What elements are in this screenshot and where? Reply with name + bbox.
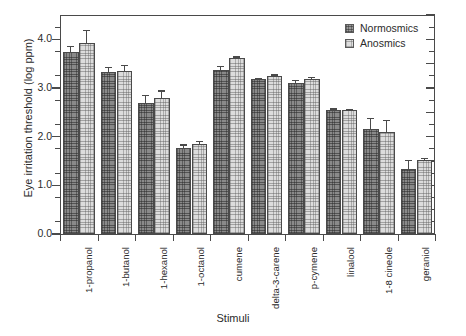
y-tick-minor [55, 124, 61, 125]
bar-normosmics [251, 79, 267, 234]
x-tick [398, 234, 399, 241]
y-tick-major [52, 39, 61, 40]
y-tick-minor [55, 173, 61, 174]
right-tick-minor [429, 124, 435, 125]
error-bar-cap [255, 78, 262, 79]
y-axis-line [60, 15, 61, 235]
bar-anosmics [192, 144, 208, 234]
y-tick-major [52, 185, 61, 186]
legend-label-anosmics: Anosmics [360, 37, 406, 49]
right-tick-minor [429, 75, 435, 76]
legend: Normosmics Anosmics [345, 22, 418, 52]
legend-swatch-normosmics-icon [345, 24, 354, 33]
bar-chart-figure: 0.01.02.03.04.0 Eye irritation threshold… [0, 0, 466, 336]
error-bar-cap [271, 74, 278, 75]
x-tick-label: 1-8 cineole [383, 247, 394, 294]
x-axis-title: Stimuli [0, 312, 466, 324]
right-tick-major [426, 112, 435, 113]
error-bar-cap [367, 118, 374, 119]
bar-anosmics [154, 98, 170, 234]
bar-normosmics [401, 169, 417, 234]
bar-normosmics [63, 52, 79, 234]
error-bar-cap [421, 158, 428, 159]
error-bar-cap [292, 80, 299, 81]
x-tick-label: 1-hexanol [158, 247, 169, 289]
y-tick-minor [55, 100, 61, 101]
error-bar [408, 160, 409, 169]
y-tick-minor [55, 148, 61, 149]
bar-anosmics [117, 71, 133, 234]
right-tick-minor [429, 27, 435, 28]
error-bar-cap [405, 160, 412, 161]
bar-normosmics [101, 72, 117, 234]
error-bar-cap [158, 90, 165, 91]
x-tick-label: delta-3-carene [270, 247, 281, 309]
right-tick-major [426, 39, 435, 40]
bar-normosmics [138, 103, 154, 234]
error-bar-cap [330, 108, 337, 109]
x-tick [323, 234, 324, 241]
x-tick [210, 234, 211, 241]
bar-anosmics [342, 110, 358, 234]
y-tick-label: 0.0 [6, 227, 52, 239]
legend-label-normosmics: Normosmics [360, 22, 418, 34]
error-bar-cap [67, 46, 74, 47]
error-bar-cap [217, 66, 224, 67]
bar-normosmics [176, 148, 192, 234]
right-tick-major [426, 14, 435, 15]
y-tick-minor [55, 75, 61, 76]
right-tick-major [426, 63, 435, 64]
error-bar [370, 118, 371, 129]
bar-normosmics [288, 83, 304, 234]
error-bar-cap [196, 141, 203, 142]
error-bar-cap [180, 144, 187, 145]
error-bar-cap [308, 77, 315, 78]
bar-normosmics [363, 129, 379, 234]
bar-anosmics [79, 43, 95, 234]
error-bar [386, 120, 387, 132]
x-tick [435, 234, 436, 241]
x-tick [285, 234, 286, 241]
bar-normosmics [326, 110, 342, 234]
error-bar-cap [346, 109, 353, 110]
error-bar-cap [105, 67, 112, 68]
legend-entry-anosmics: Anosmics [345, 37, 418, 49]
right-tick-minor [429, 51, 435, 52]
x-tick-label: cumene [233, 247, 244, 281]
error-bar-cap [121, 65, 128, 66]
x-tick [360, 234, 361, 241]
error-bar [86, 30, 87, 43]
x-tick-label: p-cymene [308, 247, 319, 289]
x-tick-label: 1-octanol [195, 247, 206, 286]
x-tick [98, 234, 99, 241]
bar-normosmics [213, 70, 229, 234]
x-tick [248, 234, 249, 241]
bar-anosmics [267, 76, 283, 234]
y-tick-minor [55, 221, 61, 222]
right-tick-major [426, 87, 435, 88]
x-tick [60, 234, 61, 241]
y-tick-major [52, 136, 61, 137]
y-tick-minor [55, 51, 61, 52]
error-bar-cap [142, 95, 149, 96]
error-bar-cap [383, 120, 390, 121]
bar-anosmics [229, 58, 245, 234]
error-bar-cap [83, 30, 90, 31]
x-tick-label: linalool [345, 247, 356, 277]
right-tick-minor [429, 100, 435, 101]
x-tick [173, 234, 174, 241]
legend-swatch-anosmics-icon [345, 39, 354, 48]
bar-anosmics [379, 132, 395, 234]
error-bar-cap [233, 56, 240, 57]
right-tick-minor [429, 148, 435, 149]
y-tick-minor [55, 197, 61, 198]
right-tick-major [426, 136, 435, 137]
bar-anosmics [417, 160, 433, 234]
x-tick-label: 1-propanol [83, 247, 94, 293]
bar-anosmics [304, 79, 320, 234]
y-tick-major [52, 87, 61, 88]
y-axis-title: Eye irritation threshold (log ppm) [22, 18, 34, 218]
y-tick-minor [55, 27, 61, 28]
x-tick-label: 1-butanol [120, 247, 131, 287]
x-tick [135, 234, 136, 241]
